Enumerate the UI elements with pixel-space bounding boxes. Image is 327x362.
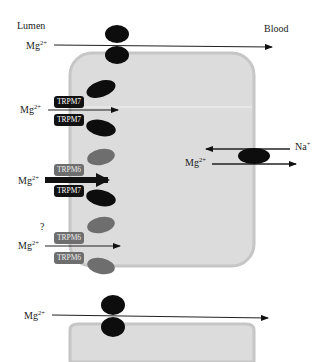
- question-mark-annotation: ?: [40, 222, 44, 232]
- blood-label: Blood: [264, 24, 288, 34]
- na-mg-exchanger: [238, 148, 270, 164]
- tight-junction-protein-bottom-lower: [101, 317, 125, 337]
- mg-label-exchanger: Mg2+: [185, 157, 206, 168]
- mg-label-trpm7: Mg2+: [20, 104, 41, 115]
- mg-label-paracellular-bottom: Mg2+: [24, 310, 45, 321]
- lumen-label: Lumen: [17, 21, 45, 31]
- magnesium-transport-diagram: [0, 0, 327, 362]
- mg-label-heteromer: Mg2+: [18, 175, 39, 186]
- trpm6-tag-upper-3: TRPM6: [54, 232, 84, 244]
- trpm7-tag-lower-2: TRPM7: [54, 185, 84, 197]
- trpm7-tag-lower-1: TRPM7: [54, 114, 84, 126]
- adjacent-cell: [70, 324, 254, 362]
- tight-junction-protein-top-upper: [105, 25, 129, 43]
- mg-label-paracellular-top: Mg2+: [26, 40, 47, 51]
- paracellular-arrow-bottom: [52, 315, 268, 318]
- tight-junction-protein-bottom-upper: [101, 295, 125, 315]
- trpm7-tag-upper-1: TRPM7: [54, 96, 84, 108]
- trpm6-tag-lower-3: TRPM6: [54, 252, 84, 264]
- trpm6-tag-upper-2: TRPM6: [54, 164, 84, 176]
- mg-label-trpm6: Mg2+: [18, 240, 39, 251]
- na-label-exchanger: Na+: [295, 141, 310, 152]
- tight-junction-protein-top-lower: [105, 46, 129, 64]
- paracellular-arrow-top: [54, 45, 272, 47]
